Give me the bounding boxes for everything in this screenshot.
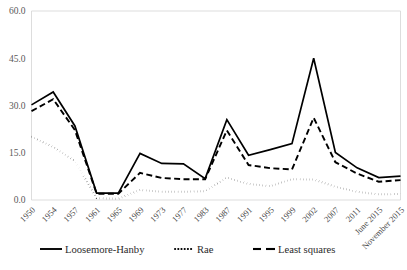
line-chart: 0.015.030.045.060.0 19501954195719611965… — [0, 0, 407, 270]
y-axis-tick-label: 45.0 — [9, 54, 26, 64]
chart-container: 0.015.030.045.060.0 19501954195719611965… — [0, 0, 407, 270]
x-axis-tick-label: 1991 — [235, 205, 254, 224]
legend-item-rae[interactable]: Rae — [175, 244, 214, 255]
series-line-least-squares — [32, 99, 401, 194]
legend-label: Loosemore-Hanby — [65, 244, 145, 255]
x-axis-tick-label: 1983 — [192, 205, 211, 224]
y-axis-tick-label: 60.0 — [9, 6, 26, 16]
x-axis-tick-label: 1961 — [83, 205, 102, 224]
x-axis-tick-label: 1965 — [105, 205, 124, 224]
legend-item-least-squares[interactable]: Least squares — [253, 244, 335, 255]
x-axis-tick-label: 2002 — [300, 205, 319, 224]
y-axis-tick-labels: 0.015.030.045.060.0 — [9, 6, 26, 205]
y-axis-tick-label: 15.0 — [9, 148, 26, 158]
x-axis-tick-label: 1969 — [126, 205, 145, 224]
series-line-loosemore-hanby — [32, 58, 401, 193]
x-axis-tick-label: 1950 — [18, 205, 37, 224]
x-axis-tick-label: 1977 — [170, 204, 190, 224]
plot-frame — [32, 11, 401, 200]
x-axis-tick-label: 1973 — [148, 205, 167, 224]
x-axis-tick-label: 1957 — [61, 204, 81, 224]
plot-border — [32, 11, 401, 200]
x-axis-tick-label: 1954 — [40, 204, 60, 224]
x-axis-tick-label: 1999 — [278, 205, 297, 224]
legend-item-loosemore-hanby[interactable]: Loosemore-Hanby — [40, 244, 145, 255]
data-series-group — [32, 58, 401, 198]
x-axis-tick-label: 1987 — [213, 204, 233, 224]
legend-label: Least squares — [278, 244, 335, 255]
x-axis-tick-label: 1995 — [257, 205, 276, 224]
y-axis-tick-label: 30.0 — [9, 101, 26, 111]
chart-legend: Loosemore-HanbyRaeLeast squares — [40, 244, 335, 255]
y-axis-tick-label: 0.0 — [14, 195, 26, 205]
x-axis-tick-label: 2007 — [322, 204, 342, 224]
legend-label: Rae — [197, 244, 214, 255]
